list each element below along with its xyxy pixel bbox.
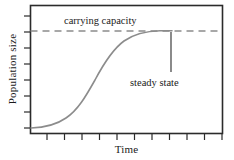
- steady-state-annotation: steady state: [130, 77, 179, 88]
- y-axis-title: Population size: [6, 21, 18, 117]
- x-axis-ticks: [47, 134, 222, 141]
- carrying-capacity-annotation: carrying capacity: [64, 15, 137, 26]
- population-growth-chart: Population size Time carrying capacity s…: [0, 0, 234, 160]
- y-axis-ticks: [24, 16, 31, 128]
- x-axis-title: Time: [30, 143, 223, 155]
